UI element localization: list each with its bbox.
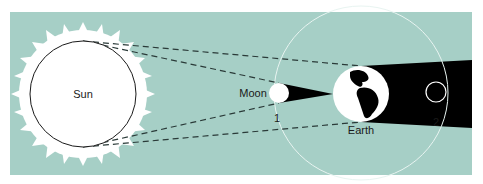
position-1-label: 1 bbox=[274, 112, 280, 124]
position-2-label: 2 bbox=[433, 116, 439, 128]
earth-label: Earth bbox=[348, 124, 374, 136]
sun-label: Sun bbox=[73, 88, 93, 100]
moon bbox=[269, 83, 289, 103]
moon-label: Moon bbox=[239, 87, 267, 99]
eclipse-diagram: Sun Moon 1 Earth 2 bbox=[0, 0, 483, 184]
